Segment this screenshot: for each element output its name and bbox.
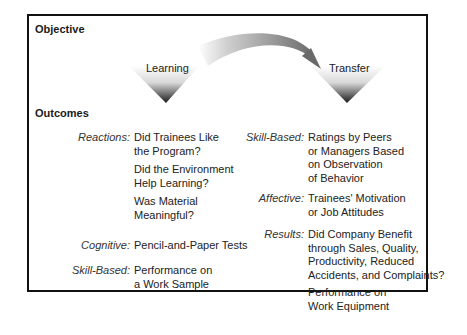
outcome-line: Help Learning? xyxy=(134,177,234,191)
outcome-line: Accidents, and Complaints? xyxy=(308,269,444,283)
outcome-item: Did Trainees Like the Program? xyxy=(134,131,219,158)
outcome-line: Was Material xyxy=(134,195,198,209)
curved-arrow-icon xyxy=(198,33,313,66)
outcome-line: Work Equipment xyxy=(308,300,389,314)
outcome-line: Meaningful? xyxy=(134,209,198,223)
category-skill-based-left: Skill-Based: xyxy=(72,264,130,276)
outcome-line: Trainees' Motivation xyxy=(308,192,406,206)
outcome-line: through Sales, Quality, xyxy=(308,242,444,256)
outcome-line: Did the Environment xyxy=(134,163,234,177)
outcome-item: Performance on a Work Sample xyxy=(134,264,212,291)
category-cognitive: Cognitive: xyxy=(81,239,130,251)
outcome-line: or Managers Based xyxy=(308,145,404,159)
outcome-line: or Job Attitudes xyxy=(308,206,406,220)
outcome-line: Ratings by Peers xyxy=(308,131,404,145)
outcome-item: Trainees' Motivation or Job Attitudes xyxy=(308,192,406,219)
outcome-line: Productivity, Reduced xyxy=(308,255,444,269)
outcome-item: Pencil-and-Paper Tests xyxy=(134,239,248,253)
objective-heading: Objective xyxy=(35,23,85,35)
outcome-item: Was Material Meaningful? xyxy=(134,195,198,222)
outcome-line: on Observation xyxy=(308,158,404,172)
outcome-line: Performance on xyxy=(308,286,389,300)
learning-label: Learning xyxy=(146,62,189,74)
category-skill-based-right: Skill-Based: xyxy=(246,131,304,143)
outcome-line: Performance on xyxy=(134,264,212,278)
outcomes-heading: Outcomes xyxy=(35,107,89,119)
outcome-line: Pencil-and-Paper Tests xyxy=(134,239,248,253)
outcome-line: the Program? xyxy=(134,145,219,159)
outcome-line: of Behavior xyxy=(308,172,404,186)
outcome-line: a Work Sample xyxy=(134,278,212,292)
outcome-item: Performance on Work Equipment xyxy=(308,286,389,313)
outcome-line: Did Trainees Like xyxy=(134,131,219,145)
outcome-item: Ratings by Peers or Managers Based on Ob… xyxy=(308,131,404,185)
category-results: Results: xyxy=(264,228,304,240)
outcome-item: Did Company Benefit through Sales, Quali… xyxy=(308,228,444,282)
outcome-item: Did the Environment Help Learning? xyxy=(134,163,234,190)
transfer-label: Transfer xyxy=(329,62,370,74)
outcome-line: Did Company Benefit xyxy=(308,228,444,242)
category-reactions: Reactions: xyxy=(78,131,130,143)
category-affective: Affective: xyxy=(259,192,304,204)
